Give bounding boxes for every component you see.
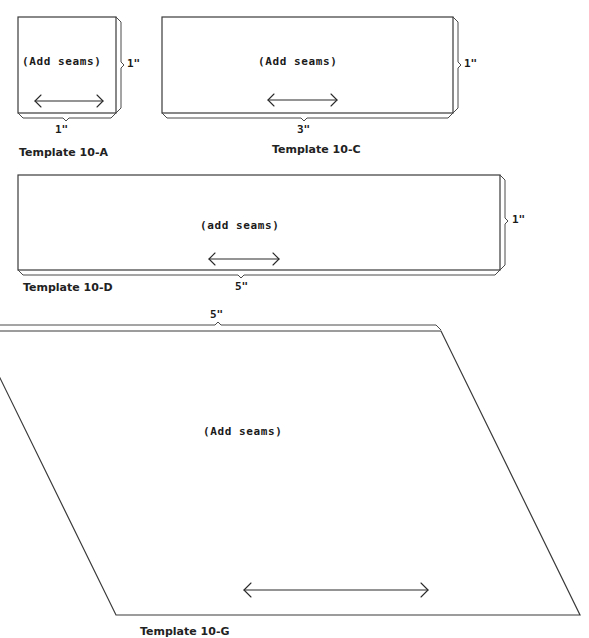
templates-diagram: (Add seams) 1" 1" Template 10-A (Add sea…: [0, 0, 589, 638]
width-dimension: 5": [210, 308, 223, 321]
height-bracket: [453, 17, 461, 113]
width-dimension: 1": [55, 123, 68, 136]
template-label: Template 10-A: [19, 146, 108, 159]
width-bracket: [0, 322, 441, 330]
width-dimension: 3": [297, 123, 310, 136]
template-label: Template 10-G: [140, 625, 229, 638]
height-dimension: 1": [127, 57, 140, 70]
width-dimension: 5": [235, 280, 248, 293]
width-bracket: [18, 270, 500, 278]
height-bracket: [500, 175, 508, 270]
height-dimension: 1": [512, 213, 525, 226]
grain-arrow-icon: [209, 253, 279, 265]
template-10-d: (add seams) 1" 5" Template 10-D: [18, 175, 525, 294]
seam-note: (Add seams): [22, 55, 101, 68]
height-bracket: [116, 17, 124, 113]
grain-arrow-icon: [244, 583, 428, 597]
grain-arrow-icon: [268, 94, 337, 106]
width-bracket: [162, 113, 453, 121]
seam-note: (add seams): [200, 219, 279, 232]
seam-note: (Add seams): [203, 425, 282, 438]
width-bracket: [18, 113, 116, 121]
template-10-g: 5" (Add seams) Template 10-G: [0, 308, 580, 638]
height-dimension: 1": [464, 57, 477, 70]
template-label: Template 10-C: [272, 143, 361, 156]
seam-note: (Add seams): [258, 55, 337, 68]
grain-arrow-icon: [35, 95, 103, 107]
template-10-g-outline: [0, 331, 580, 615]
template-10-a: (Add seams) 1" 1" Template 10-A: [18, 17, 140, 159]
template-label: Template 10-D: [23, 281, 113, 294]
template-10-c: (Add seams) 1" 3" Template 10-C: [162, 17, 477, 156]
